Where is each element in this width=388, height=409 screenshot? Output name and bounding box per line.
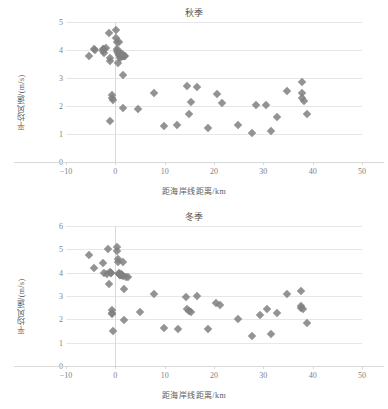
y-tick-label: 1	[59, 130, 63, 139]
x-tick-mark	[165, 366, 166, 369]
x-axis-label-winter: 距海岸线距离/km	[0, 389, 388, 400]
y-tick-label: 3	[59, 292, 63, 301]
y-tick-label: 1	[59, 338, 63, 347]
y-tick-label: 2	[59, 102, 63, 111]
gridline	[66, 343, 362, 344]
y-tick-label: 2	[59, 315, 63, 324]
x-tick-label: 0	[113, 167, 117, 176]
x-tick-mark	[66, 366, 67, 369]
gridline	[66, 319, 362, 320]
x-tick-label: 30	[259, 167, 267, 176]
gridline	[66, 134, 362, 135]
y-tick-label: 4	[59, 46, 63, 55]
y-axis-label-autumn: 平均风速/(m/s)	[16, 74, 27, 129]
y-tick-label: 4	[59, 268, 63, 277]
x-tick-label: 30	[259, 371, 267, 380]
gridline	[66, 50, 362, 51]
y-tick-label: 6	[59, 222, 63, 231]
chart-winter: 冬季 平均风速/(m/s) 距海岸线距离/km 0123456 −1001020…	[0, 204, 388, 408]
x-tick-mark	[214, 366, 215, 369]
gridline	[66, 78, 362, 79]
y-tick-label: 3	[59, 74, 63, 83]
y-axis-label-winter: 平均风速/(m/s)	[16, 278, 27, 333]
x-tick-label: −10	[60, 371, 73, 380]
x-tick-label: 50	[358, 371, 366, 380]
x-tick-mark	[115, 162, 116, 165]
x-tick-label: 20	[210, 371, 218, 380]
y-tick-label: 5	[59, 18, 63, 27]
x-tick-mark	[362, 366, 363, 369]
x-tick-label: 50	[358, 167, 366, 176]
x-tick-mark	[66, 162, 67, 165]
x-tick-label: 40	[309, 371, 317, 380]
x-tick-mark	[313, 162, 314, 165]
gridline	[66, 296, 362, 297]
x-axis-label-autumn: 距海岸线距离/km	[0, 185, 388, 196]
x-tick-label: −10	[60, 167, 73, 176]
x-tick-mark	[115, 366, 116, 369]
x-tick-mark	[263, 366, 264, 369]
x-tick-label: 40	[309, 167, 317, 176]
gridline	[66, 226, 362, 227]
plot-area-winter: 0123456 −1001020304050	[66, 226, 362, 366]
plot-area-autumn: 012345 −1001020304050	[66, 22, 362, 162]
x-tick-mark	[165, 162, 166, 165]
x-tick-label: 10	[161, 371, 169, 380]
gridline	[66, 106, 362, 107]
x-tick-mark	[362, 162, 363, 165]
x-axis-line	[14, 366, 384, 367]
x-axis-line	[14, 162, 384, 163]
x-tick-mark	[263, 162, 264, 165]
x-tick-label: 0	[113, 371, 117, 380]
x-tick-label: 10	[161, 167, 169, 176]
y-tick-label: 5	[59, 245, 63, 254]
figure-root: 秋季 平均风速/(m/s) 距海岸线距离/km 012345 −10010203…	[0, 0, 388, 409]
x-tick-mark	[214, 162, 215, 165]
chart-autumn: 秋季 平均风速/(m/s) 距海岸线距离/km 012345 −10010203…	[0, 0, 388, 204]
gridline	[66, 22, 362, 23]
x-tick-mark	[313, 366, 314, 369]
x-tick-label: 20	[210, 167, 218, 176]
